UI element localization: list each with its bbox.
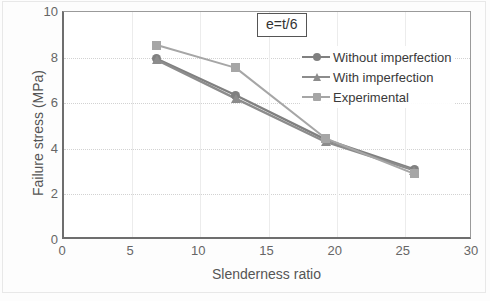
x-tick-label: 10 [178, 243, 218, 258]
x-axis-ticks: 051015202530 [62, 243, 471, 263]
y-tick-label: 10 [18, 4, 58, 19]
x-tick-label: 30 [451, 243, 490, 258]
square-marker-icon [231, 63, 240, 72]
chart-figure: 1086420 051015202530 Slenderness ratio F… [0, 0, 490, 301]
legend-item[interactable]: With imperfection [302, 67, 452, 87]
legend-sample [302, 50, 330, 64]
x-tick-label: 25 [383, 243, 423, 258]
square-marker-icon [313, 93, 321, 101]
legend-sample [302, 90, 330, 104]
y-axis-title: Failure stress (MPa) [30, 33, 46, 233]
x-axis-title: Slenderness ratio [62, 266, 471, 282]
triangle-marker-icon [231, 94, 241, 103]
annotation-box: e=t/6 [257, 13, 307, 37]
legend-sample [302, 70, 330, 84]
x-tick-label: 20 [315, 243, 355, 258]
circle-marker-icon [313, 53, 321, 61]
triangle-marker-icon [152, 55, 162, 64]
triangle-marker-icon [313, 73, 321, 81]
legend-item[interactable]: Without imperfection [302, 47, 452, 67]
square-marker-icon [410, 169, 419, 178]
legend-label: Experimental [333, 90, 409, 105]
legend-label: Without imperfection [333, 50, 452, 65]
legend-item[interactable]: Experimental [302, 87, 452, 107]
chart-legend: Without imperfectionWith imperfectionExp… [300, 46, 454, 108]
square-marker-icon [321, 134, 330, 143]
x-tick-label: 15 [247, 243, 287, 258]
square-marker-icon [152, 41, 161, 50]
x-tick-label: 5 [110, 243, 150, 258]
legend-label: With imperfection [333, 70, 433, 85]
x-tick-label: 0 [42, 243, 82, 258]
